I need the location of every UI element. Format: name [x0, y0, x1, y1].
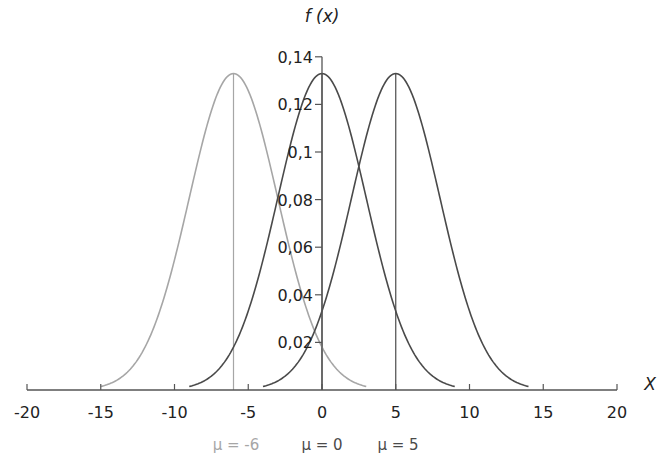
x-tick-label: 0	[317, 403, 327, 422]
y-tick-label: 0,02	[277, 333, 313, 352]
legend-item: μ = 0	[301, 436, 342, 454]
y-axis: 0,020,040,060,080,10,120,14	[277, 48, 322, 390]
x-tick-label: 5	[391, 403, 401, 422]
x-axis: -20-15-10-505101520	[14, 384, 627, 422]
x-axis-title: X	[643, 374, 656, 394]
x-tick-label: 20	[607, 403, 627, 422]
x-tick-label: -15	[88, 403, 114, 422]
x-tick-label: 10	[459, 403, 479, 422]
normal-distribution-chart: -20-15-10-505101520 0,020,040,060,080,10…	[0, 0, 659, 468]
y-tick-label: 0,1	[288, 143, 313, 162]
x-tick-label: 15	[533, 403, 553, 422]
x-tick-label: -10	[161, 403, 187, 422]
legend-item: μ = -6	[213, 436, 260, 454]
mean-lines	[234, 73, 396, 390]
y-tick-label: 0,14	[277, 48, 313, 67]
legend: μ = -6μ = 0μ = 5	[213, 436, 419, 454]
y-tick-label: 0,06	[277, 238, 313, 257]
y-tick-label: 0,04	[277, 286, 313, 305]
y-axis-title: f (x)	[305, 6, 340, 26]
y-tick-label: 0,08	[277, 191, 313, 210]
y-tick-label: 0,12	[277, 95, 313, 114]
x-tick-label: -5	[240, 403, 256, 422]
legend-item: μ = 5	[377, 436, 418, 454]
x-tick-label: -20	[14, 403, 40, 422]
density-curves	[101, 74, 529, 387]
